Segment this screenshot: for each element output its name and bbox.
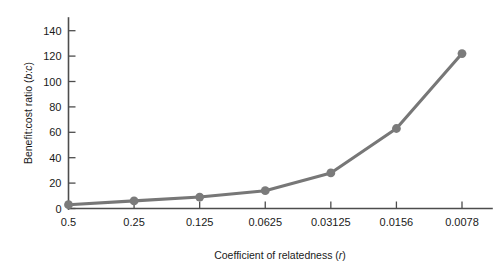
- y-tick-label: 60: [49, 126, 61, 138]
- x-tick-label: 0.0156: [380, 216, 414, 228]
- y-axis-title: Benefit:cost ratio (b:c): [22, 62, 34, 164]
- y-tick-label: 40: [49, 152, 61, 164]
- data-point-marker: [64, 200, 73, 209]
- y-tick-label: 0: [55, 203, 61, 215]
- y-tick-label: 80: [49, 101, 61, 113]
- y-tick-label: 140: [43, 25, 61, 37]
- x-tick-label: 0.0625: [248, 216, 282, 228]
- data-point-marker: [326, 169, 335, 178]
- x-tick-label: 0.03125: [311, 216, 351, 228]
- data-point-marker: [130, 196, 139, 205]
- data-point-marker: [392, 124, 401, 133]
- line-chart: 020406080100120140 0.50.250.1250.06250.0…: [0, 0, 504, 267]
- x-tick-label: 0.5: [61, 216, 76, 228]
- y-tick-label: 120: [43, 50, 61, 62]
- x-axis-title: Coefficient of relatedness (r): [214, 249, 346, 261]
- x-tick-label: 0.125: [186, 216, 214, 228]
- data-point-marker: [195, 193, 204, 202]
- x-tick-label: 0.0078: [445, 216, 479, 228]
- data-point-marker: [261, 186, 270, 195]
- data-point-marker: [458, 49, 467, 58]
- x-tick-label: 0.25: [123, 216, 144, 228]
- chart-figure: 020406080100120140 0.50.250.1250.06250.0…: [0, 0, 504, 267]
- y-tick-label: 100: [43, 76, 61, 88]
- y-tick-label: 20: [49, 177, 61, 189]
